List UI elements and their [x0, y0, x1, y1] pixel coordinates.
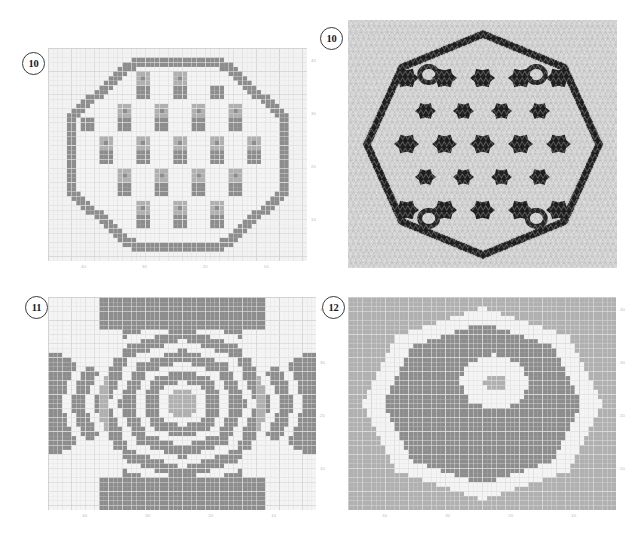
- figure-badge-12: 12: [322, 296, 345, 319]
- knitted-swatch-photo-canvas: [348, 20, 617, 268]
- x-tick-label: 20: [508, 513, 513, 518]
- figure-badge-11: 11: [25, 296, 48, 319]
- x-tick-label: 30: [145, 513, 150, 518]
- y-tick-label: 10: [320, 466, 325, 471]
- y-tick-label: 30: [620, 360, 625, 365]
- x-tick-label: 30: [445, 513, 450, 518]
- x-tick-label: 10: [571, 513, 576, 518]
- y-tick-label: 20: [311, 164, 316, 169]
- x-tick-label: 10: [271, 513, 276, 518]
- x-tick-label: 40: [382, 513, 387, 518]
- x-tick-label: 20: [208, 513, 213, 518]
- x-tick-label: 40: [81, 264, 86, 269]
- y-tick-label: 20: [620, 413, 625, 418]
- y-tick-label: 20: [320, 413, 325, 418]
- chart-grid-10: [48, 48, 307, 261]
- knitted-swatch-photo: [348, 20, 617, 268]
- chart-canvas-11: [48, 297, 316, 510]
- chart-canvas-10: [48, 48, 307, 261]
- y-tick-label: 30: [311, 111, 316, 116]
- x-tick-label: 30: [142, 264, 147, 269]
- chart-grid-12: [348, 297, 616, 510]
- y-tick-label: 40: [311, 58, 316, 63]
- chart-grid-11: [48, 297, 316, 510]
- y-tick-label: 40: [620, 307, 625, 312]
- x-tick-label: 10: [264, 264, 269, 269]
- x-tick-label: 40: [82, 513, 87, 518]
- figure-badge-10-photo: 10: [320, 27, 343, 50]
- y-tick-label: 30: [320, 360, 325, 365]
- y-tick-label: 10: [311, 217, 316, 222]
- y-tick-label: 10: [620, 466, 625, 471]
- chart-canvas-12: [348, 297, 616, 510]
- x-tick-label: 20: [203, 264, 208, 269]
- figure-badge-10-chart: 10: [22, 52, 45, 75]
